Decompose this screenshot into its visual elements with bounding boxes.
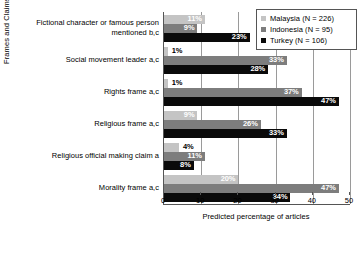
- bar-value-label: 26%: [243, 119, 261, 129]
- x-axis-tick: [237, 192, 238, 195]
- bar: [164, 97, 339, 106]
- x-axis-tick-label: 20: [233, 196, 241, 206]
- category-group: Rights frame a,c1%37%47%: [164, 76, 350, 108]
- category-label: Fictional character or famous personment…: [0, 18, 159, 37]
- legend-swatch-icon: [261, 27, 266, 32]
- bar-value-label: 47%: [321, 183, 339, 193]
- bar-value-label: 1%: [168, 78, 183, 88]
- bar: [164, 143, 179, 152]
- x-axis-tick: [275, 192, 276, 195]
- legend-swatch-icon: [261, 38, 266, 43]
- category-group: Morality frame a,c20%47%34%: [164, 172, 350, 204]
- category-label: Morality frame a,c: [0, 183, 159, 193]
- bar-value-label: 33%: [269, 55, 287, 65]
- legend: Malaysia (N = 226) Indonesia (N = 95) Tu…: [256, 9, 357, 50]
- bar-row: 34%: [164, 193, 350, 202]
- bar-value-label: 8%: [180, 160, 194, 170]
- category-label-line: Religious frame a,c: [0, 119, 159, 129]
- category-label-line: Fictional character or famous person: [0, 18, 159, 28]
- bar-value-label: 47%: [321, 96, 339, 106]
- category-label: Social movement leader a,c: [0, 55, 159, 65]
- bar: [164, 88, 302, 97]
- category-label-line: Social movement leader a,c: [0, 55, 159, 65]
- legend-label: Turkey (N = 106): [270, 35, 327, 46]
- legend-swatch-icon: [261, 16, 266, 21]
- x-axis-tick-label: 50: [345, 196, 353, 206]
- category-label-line: Morality frame a,c: [0, 183, 159, 193]
- category-label-line: Religious official making claim a: [0, 151, 159, 161]
- category-label-line: mentioned b,c: [0, 28, 159, 38]
- legend-item-turkey: Turkey (N = 106): [261, 35, 352, 46]
- legend-item-indonesia: Indonesia (N = 95): [261, 24, 352, 35]
- x-axis-tick: [349, 192, 350, 195]
- bar-value-label: 20%: [221, 174, 239, 184]
- bar-chart: Frames and Claimsmakers Fictional charac…: [0, 0, 364, 256]
- x-axis-tick: [163, 192, 164, 195]
- x-axis-title: Predicted percentage of articles: [163, 212, 349, 221]
- bar-row: 26%: [164, 120, 350, 129]
- category-group: Religious frame a,c9%26%33%: [164, 108, 350, 140]
- bar-row: 47%: [164, 97, 350, 106]
- bar-value-label: 23%: [232, 32, 250, 42]
- bar-row: 1%: [164, 79, 350, 88]
- x-axis-tick: [200, 192, 201, 195]
- x-axis-tick: [312, 192, 313, 195]
- bar-value-label: 33%: [269, 128, 287, 138]
- x-axis-tick-label: 0: [161, 196, 165, 206]
- bar-row: 47%: [164, 184, 350, 193]
- bar-value-label: 28%: [250, 64, 268, 74]
- x-axis-tick-label: 10: [196, 196, 204, 206]
- legend-item-malaysia: Malaysia (N = 226): [261, 13, 352, 24]
- bar-value-label: 9%: [184, 23, 198, 33]
- x-axis-tick-label: 30: [270, 196, 278, 206]
- bar-value-label: 9%: [184, 110, 198, 120]
- bar-row: 28%: [164, 65, 350, 74]
- bar-value-label: 1%: [168, 46, 183, 56]
- category-group: Religious official making claim a4%11%8%: [164, 140, 350, 172]
- bar-row: 8%: [164, 161, 350, 170]
- bar-row: 33%: [164, 129, 350, 138]
- bar-value-label: 37%: [284, 87, 302, 97]
- category-label-line: Rights frame a,c: [0, 87, 159, 97]
- x-axis-tick-label: 40: [308, 196, 316, 206]
- category-label: Religious official making claim a: [0, 151, 159, 161]
- legend-label: Indonesia (N = 95): [270, 24, 333, 35]
- category-label: Rights frame a,c: [0, 87, 159, 97]
- category-label: Religious frame a,c: [0, 119, 159, 129]
- legend-label: Malaysia (N = 226): [270, 13, 334, 24]
